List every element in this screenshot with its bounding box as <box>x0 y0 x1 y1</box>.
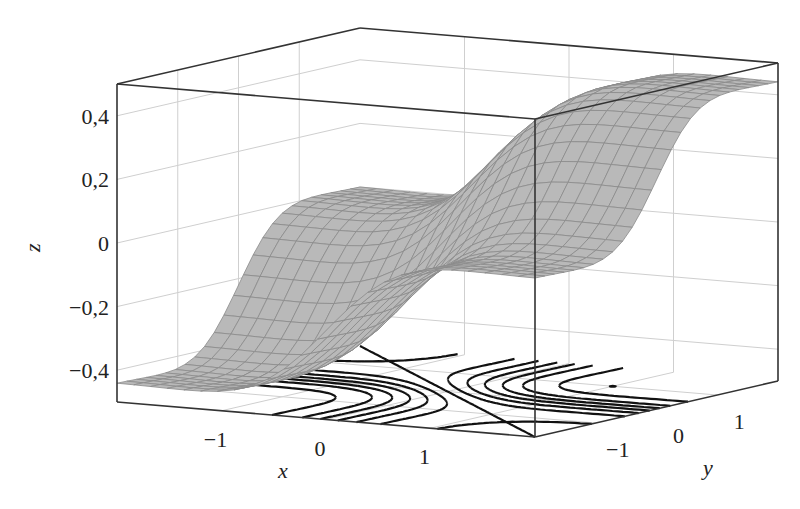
surface-plot: −0,4−0,200,20,4−101−101 x y z <box>0 0 800 509</box>
z-tick-label: −0,4 <box>69 358 109 383</box>
contour-line <box>503 364 660 408</box>
z-tick-label: 0,4 <box>82 104 110 129</box>
z-tick-label: 0 <box>98 231 109 256</box>
contour-line <box>303 346 591 437</box>
contour-line <box>485 363 650 411</box>
y-tick-label: 1 <box>734 409 745 434</box>
z-tick-label: 0,2 <box>82 167 110 192</box>
x-tick-label: 1 <box>419 444 430 469</box>
z-axis-label: z <box>20 243 45 253</box>
x-tick-label: −1 <box>204 427 227 452</box>
z-tick-label: −0,2 <box>69 295 109 320</box>
surface-mesh <box>117 74 778 392</box>
box-edge <box>117 402 535 437</box>
extremum-marker <box>609 385 617 388</box>
y-axis-label: y <box>701 455 713 480</box>
y-tick-label: 0 <box>673 423 684 448</box>
x-tick-label: 0 <box>315 436 326 461</box>
y-tick-label: −1 <box>606 437 629 462</box>
x-axis-label: x <box>277 458 288 483</box>
